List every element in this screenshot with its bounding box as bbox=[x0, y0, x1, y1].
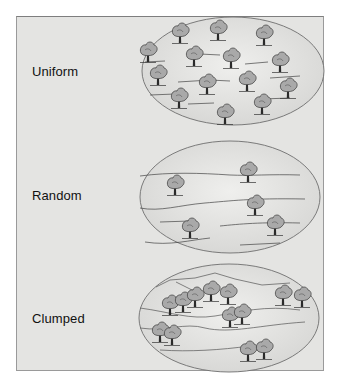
ellipse-uniform bbox=[140, 17, 324, 125]
dispersion-illustrations bbox=[0, 0, 338, 388]
ellipse-clumped bbox=[139, 264, 319, 372]
ellipse-random bbox=[140, 141, 320, 253]
